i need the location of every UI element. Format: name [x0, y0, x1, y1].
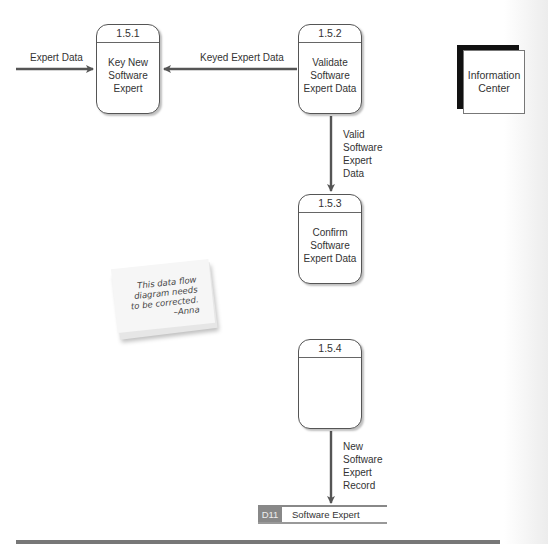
flow-label-valid-data: Valid Software Expert Data [343, 128, 393, 180]
process-id: 1.5.1 [97, 25, 159, 43]
process-1-5-4[interactable]: 1.5.4 [298, 339, 362, 429]
data-store-bottom-line [258, 522, 387, 524]
process-1-5-1[interactable]: 1.5.1 Key New Software Expert [96, 24, 160, 114]
flow-label-new-record: New Software Expert Record [343, 440, 393, 492]
process-id: 1.5.2 [299, 25, 361, 43]
sticky-note: This data flow diagram needs to be corre… [111, 259, 215, 333]
process-1-5-2[interactable]: 1.5.2 Validate Software Expert Data [298, 24, 362, 114]
data-store-d11[interactable]: D11 Software Expert [258, 506, 387, 522]
process-label: Confirm Software Expert Data [299, 213, 361, 265]
sticky-note-text: This data flow diagram needs to be corre… [118, 274, 200, 322]
page-bottom-rule [16, 540, 500, 544]
process-label: Validate Software Expert Data [299, 43, 361, 95]
process-label: Key New Software Expert [97, 43, 159, 95]
process-id: 1.5.3 [299, 195, 361, 213]
data-store-id: D11 [258, 506, 282, 522]
process-label [299, 358, 361, 371]
entity-label: Information Center [467, 69, 521, 95]
external-entity-information-center[interactable]: Information Center [463, 50, 525, 114]
data-store-label: Software Expert [282, 506, 360, 522]
process-1-5-3[interactable]: 1.5.3 Confirm Software Expert Data [298, 194, 362, 284]
process-id: 1.5.4 [299, 340, 361, 358]
flow-label-expert-data: Expert Data [30, 51, 83, 64]
flow-label-keyed-expert-data: Keyed Expert Data [200, 51, 284, 64]
